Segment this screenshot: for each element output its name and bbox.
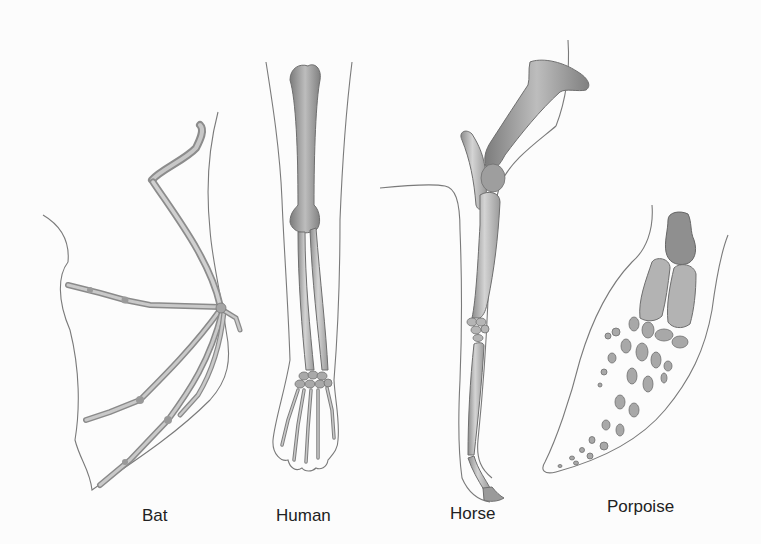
homologous-limbs-figure: Bat Human Horse Porpoise [0, 0, 761, 544]
label-human: Human [276, 506, 331, 526]
bat-wing [43, 112, 240, 490]
limb-illustrations [0, 0, 761, 544]
porpoise-flipper [543, 205, 728, 473]
label-bat: Bat [142, 506, 168, 526]
label-horse: Horse [450, 504, 495, 524]
label-porpoise: Porpoise [607, 497, 674, 517]
human-arm [266, 62, 352, 471]
